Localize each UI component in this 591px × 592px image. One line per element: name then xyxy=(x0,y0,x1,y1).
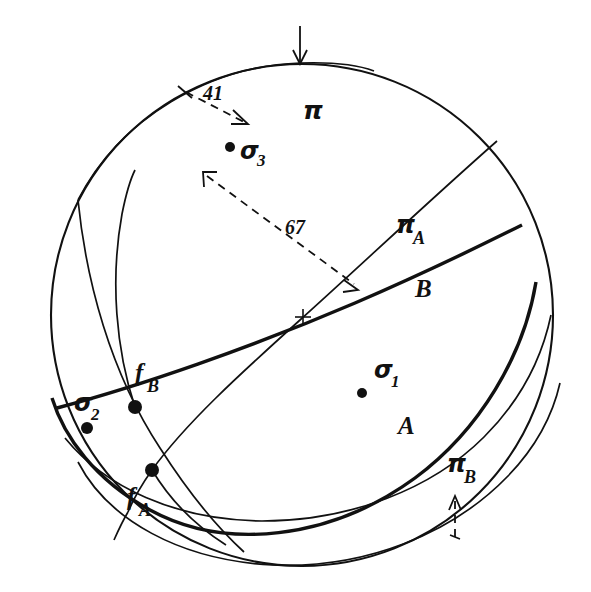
angle-67-label: 67 xyxy=(285,216,306,238)
pi-a-label: π A xyxy=(396,211,425,248)
svg-text:2: 2 xyxy=(90,405,100,424)
sigma-3-label: σ 3 xyxy=(240,137,266,170)
f-a-projection-arc xyxy=(152,470,226,545)
pi-b-label: π B xyxy=(447,450,476,487)
angle-41-arrowhead xyxy=(231,110,248,124)
pi-label: π xyxy=(303,96,323,125)
plane-b-label: B xyxy=(414,275,432,302)
pi-great-circle xyxy=(78,63,374,200)
stereonet-canvas: π 41 67 σ 3 π A B σ 1 A π B f xyxy=(0,0,591,592)
f-b-point xyxy=(128,400,142,414)
angle-67-arrowhead-bottom xyxy=(343,280,358,292)
svg-text:1: 1 xyxy=(391,372,400,391)
f-b-label: f B xyxy=(135,359,159,396)
svg-text:B: B xyxy=(463,467,476,487)
stereonet-figure: π 41 67 σ 3 π A B σ 1 A π B f xyxy=(0,0,591,592)
pi-b-great-circle xyxy=(65,315,551,521)
sigma-1-label: σ 1 xyxy=(374,356,400,391)
angle-67-dashed-line xyxy=(207,176,354,284)
sigma-1-point xyxy=(357,388,367,398)
plane-a-great-circle xyxy=(52,282,536,534)
angle-41-label: 41 xyxy=(202,82,223,104)
angle-67-arrowhead-top xyxy=(203,172,217,187)
f-a-point xyxy=(145,463,159,477)
svg-text:A: A xyxy=(412,228,425,248)
svg-text:3: 3 xyxy=(256,151,266,170)
plane-a-label: A xyxy=(396,412,415,439)
svg-text:A: A xyxy=(138,500,151,520)
svg-text:B: B xyxy=(146,376,159,396)
f-b-projection-arc xyxy=(116,170,135,407)
sigma-3-point xyxy=(225,142,235,152)
sigma-2-label: σ 2 xyxy=(74,389,100,424)
